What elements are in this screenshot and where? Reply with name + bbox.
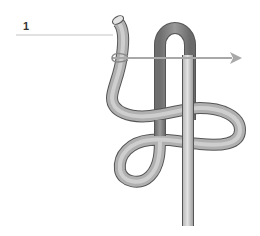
rope-standing-part [182, 55, 194, 226]
knot-illustration [0, 0, 260, 236]
rope-bight-left-leg-over [154, 120, 166, 136]
rope-working-end [111, 14, 240, 182]
pull-arrow [112, 52, 242, 64]
